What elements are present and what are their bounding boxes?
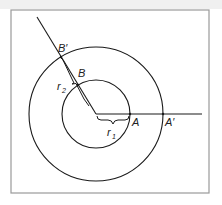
svg-text:1: 1 xyxy=(112,133,116,140)
diagram-canvas: B′ B A A′ r 1 r 2 xyxy=(0,0,222,205)
label-A: A xyxy=(131,116,139,128)
point-B xyxy=(77,84,79,86)
point-A-prime xyxy=(162,113,164,115)
point-A xyxy=(129,113,131,115)
svg-text:2: 2 xyxy=(61,87,66,94)
label-B: B xyxy=(78,67,85,79)
label-B-prime: B′ xyxy=(58,42,68,54)
label-A-prime: A′ xyxy=(164,116,175,128)
point-B-prime xyxy=(60,56,62,58)
diagram-frame xyxy=(11,10,209,193)
